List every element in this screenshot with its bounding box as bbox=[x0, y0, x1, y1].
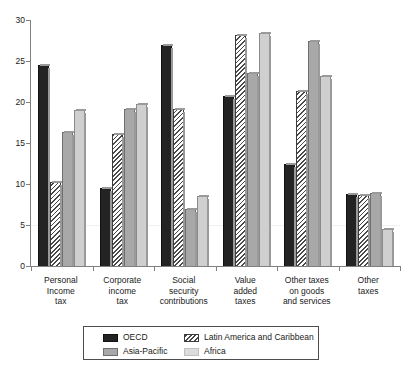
y-axis-tick-mark bbox=[26, 184, 30, 185]
x-axis-tick-mark bbox=[277, 266, 278, 271]
bar-asia-pacific bbox=[62, 132, 73, 266]
bar-asia-pacific bbox=[247, 73, 258, 266]
x-axis-tick-mark bbox=[31, 266, 32, 271]
bar-africa bbox=[197, 196, 208, 266]
x-axis-category-label-line: and services bbox=[270, 296, 344, 307]
bar-latin-america-and-caribbean bbox=[173, 109, 184, 266]
legend-item-asia-pacific[interactable]: Asia-Pacific bbox=[103, 345, 167, 358]
bar-africa bbox=[320, 76, 331, 266]
bar-groups bbox=[31, 20, 400, 266]
legend-item-oecd[interactable]: OECD bbox=[103, 331, 148, 344]
legend-swatch-asia-pacific-icon bbox=[103, 348, 118, 356]
legend-label-oecd: OECD bbox=[123, 333, 148, 342]
y-axis-tick-mark bbox=[26, 225, 30, 226]
plot-area: 051015202530 bbox=[30, 14, 404, 272]
x-axis-tick-mark bbox=[339, 266, 340, 271]
bar-africa bbox=[382, 229, 393, 266]
y-axis-tick-mark bbox=[26, 143, 30, 144]
bar-group bbox=[216, 20, 278, 266]
x-axis-category-label: Othertaxes bbox=[332, 275, 406, 296]
y-axis-tick-mark bbox=[26, 20, 30, 21]
bar-latin-america-and-caribbean bbox=[235, 35, 246, 266]
chart-legend: OECD Latin America and Caribbean Asia-Pa… bbox=[83, 326, 319, 360]
x-axis-ticks bbox=[30, 266, 404, 272]
legend-item-latin-america-and-caribbean[interactable]: Latin America and Caribbean bbox=[184, 331, 314, 344]
bar-oecd bbox=[161, 45, 172, 266]
x-axis-tick-mark bbox=[93, 266, 94, 271]
legend-swatch-oecd-icon bbox=[103, 334, 118, 342]
x-axis-category-label-line: Other bbox=[332, 275, 406, 286]
bar-oecd bbox=[38, 65, 49, 266]
legend-label-asia-pacific: Asia-Pacific bbox=[123, 347, 167, 356]
bar-asia-pacific bbox=[185, 209, 196, 266]
bar-group bbox=[154, 20, 216, 266]
y-axis-tick-label: 30 bbox=[3, 16, 25, 25]
legend-swatch-africa-icon bbox=[184, 348, 199, 356]
bar-chart: 051015202530 PersonalIncometaxCorporatei… bbox=[0, 0, 412, 367]
bar-asia-pacific bbox=[124, 109, 135, 266]
legend-label-latin-america-and-caribbean: Latin America and Caribbean bbox=[204, 333, 314, 342]
bar-asia-pacific bbox=[308, 41, 319, 267]
bar-latin-america-and-caribbean bbox=[358, 195, 369, 266]
x-axis-tick-mark bbox=[400, 266, 401, 271]
bar-latin-america-and-caribbean bbox=[112, 134, 123, 266]
legend-row-1: OECD Latin America and Caribbean bbox=[84, 331, 320, 344]
x-axis-tick-mark bbox=[216, 266, 217, 271]
bar-group bbox=[277, 20, 339, 266]
bar-group bbox=[93, 20, 155, 266]
y-axis-tick-label: 0 bbox=[3, 262, 25, 271]
bar-africa bbox=[259, 33, 270, 266]
legend-row-2: Asia-Pacific Africa bbox=[84, 345, 320, 358]
bar-group bbox=[31, 20, 93, 266]
bar-oecd bbox=[346, 194, 357, 266]
y-axis-tick-label: 25 bbox=[3, 57, 25, 66]
bar-africa bbox=[136, 104, 147, 266]
x-axis-category-label-line: taxes bbox=[332, 286, 406, 297]
bar-latin-america-and-caribbean bbox=[296, 91, 307, 266]
legend-swatch-latin-america-and-caribbean-icon bbox=[184, 334, 199, 342]
legend-label-africa: Africa bbox=[204, 347, 226, 356]
bar-asia-pacific bbox=[370, 193, 381, 266]
bar-latin-america-and-caribbean bbox=[50, 182, 61, 266]
x-axis-tick-mark bbox=[154, 266, 155, 271]
y-axis-tick-mark bbox=[26, 61, 30, 62]
y-axis-tick-label: 5 bbox=[3, 221, 25, 230]
legend-item-africa[interactable]: Africa bbox=[184, 345, 226, 358]
y-axis-tick-label: 10 bbox=[3, 180, 25, 189]
x-axis-labels: PersonalIncometaxCorporateincometaxSocia… bbox=[30, 275, 404, 319]
y-axis-tick-label: 15 bbox=[3, 139, 25, 148]
bar-oecd bbox=[100, 188, 111, 266]
bar-oecd bbox=[223, 96, 234, 266]
y-axis-tick-mark bbox=[26, 102, 30, 103]
bar-group bbox=[339, 20, 401, 266]
bar-africa bbox=[74, 110, 85, 266]
y-axis-tick-label: 20 bbox=[3, 98, 25, 107]
bar-oecd bbox=[284, 164, 295, 266]
